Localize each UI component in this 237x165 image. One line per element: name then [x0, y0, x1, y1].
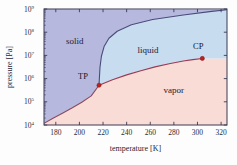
y-tick-exponent: 5	[32, 97, 35, 102]
region-label-liquid: liquid	[137, 45, 159, 55]
y-tick-label: 104	[24, 121, 35, 130]
triple-point-marker	[97, 83, 101, 87]
y-tick-exponent: 4	[32, 121, 35, 126]
y-tick-label: 106	[24, 74, 35, 83]
triple-point-label: TP	[78, 71, 88, 81]
y-tick-label: 105	[24, 97, 35, 106]
y-tick-exponent: 9	[32, 5, 35, 10]
y-tick-exponent: 8	[32, 28, 35, 33]
y-tick-exponent: 6	[32, 74, 35, 79]
y-tick-label: 107	[24, 51, 35, 60]
x-tick-label: 220	[97, 128, 109, 137]
critical-point-label: CP	[193, 41, 204, 51]
region-label-solid: solid	[66, 36, 84, 46]
x-tick-label: 280	[168, 128, 180, 137]
y-tick-label: 108	[24, 28, 35, 37]
x-tick-label: 320	[215, 128, 227, 137]
plot-regions-group	[44, 9, 227, 125]
x-tick-label: 200	[74, 128, 86, 137]
x-tick-label: 180	[50, 128, 62, 137]
region-label-vapor: vapor	[164, 85, 185, 95]
phase-diagram-figure: 1802002202402602803003201041051061071081…	[0, 0, 237, 165]
x-tick-label: 300	[192, 128, 204, 137]
x-tick-label: 260	[145, 128, 157, 137]
x-tick-label: 240	[121, 128, 133, 137]
phase-diagram-svg: 1802002202402602803003201041051061071081…	[0, 0, 237, 165]
y-tick-label: 109	[24, 5, 35, 14]
y-axis-title: pressure [Pa]	[5, 46, 14, 88]
critical-point-marker	[200, 56, 204, 60]
y-tick-exponent: 7	[32, 51, 35, 56]
x-axis-title: temperature [K]	[110, 144, 162, 153]
